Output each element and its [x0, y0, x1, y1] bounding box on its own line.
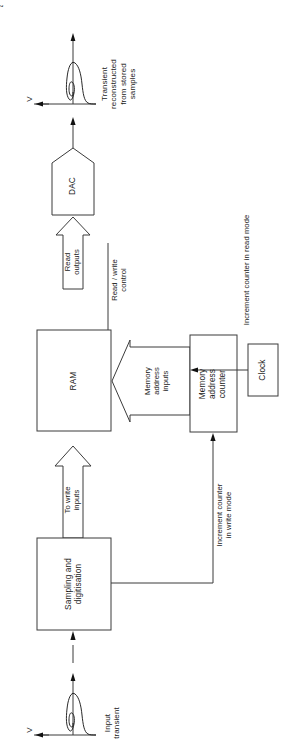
- memory-address-inputs-label: Memory address inputs: [144, 354, 171, 408]
- dac-output-arrow: [70, 117, 75, 148]
- output-transient-waveform: [34, 33, 96, 106]
- dac-block-label: DAC: [68, 163, 78, 209]
- diagram-canvas: V Transient reconstructed from stored sa…: [0, 0, 296, 755]
- increment-counter-read-label: Increment counter in read mode: [243, 200, 252, 340]
- read-write-control-label: Read / write control: [111, 250, 129, 310]
- output-waveform-axis-label: V: [25, 96, 34, 101]
- output-transient-caption: Transient reconstructed from stored samp…: [100, 34, 138, 134]
- memory-address-counter-label: Memory address counter: [198, 349, 227, 419]
- input-transient-caption: Input transient: [103, 696, 122, 750]
- input-waveform-axis-label: V: [25, 727, 34, 732]
- to-write-inputs-label: To write inputs: [64, 473, 82, 527]
- sampling-input-arrow: [70, 631, 75, 663]
- increment-counter-write-label: Increment counter in write mode: [216, 467, 234, 563]
- increment-counter-write-path: [111, 433, 216, 583]
- read-outputs-label: Read outputs: [64, 238, 82, 286]
- ram-block-label: RAM: [69, 352, 79, 410]
- sampling-and-digitisation-label: Sampling and digitisation: [64, 544, 84, 624]
- time-axis-label: t: [0, 0, 5, 7]
- input-transient-waveform: [34, 673, 96, 737]
- clock-block-label: Clock: [258, 350, 268, 390]
